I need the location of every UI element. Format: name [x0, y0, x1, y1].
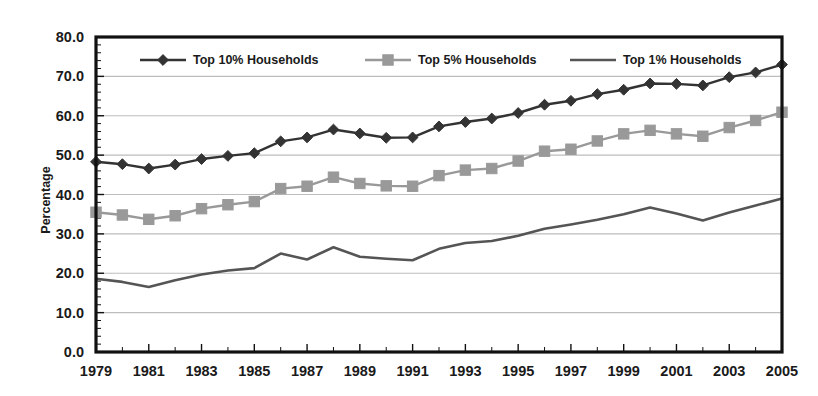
- data-point-marker: [592, 136, 602, 146]
- x-tick-label-2001: 2001: [660, 363, 692, 379]
- line-chart: 0.010.020.030.040.050.060.070.080.0 1979…: [0, 0, 818, 396]
- data-point-marker: [170, 211, 180, 221]
- legend-label: Top 1% Households: [623, 53, 742, 67]
- x-tick-label-1985: 1985: [238, 363, 270, 379]
- x-tick-label-1989: 1989: [344, 363, 376, 379]
- data-point-marker: [144, 214, 154, 224]
- chart-legend: Top 10% HouseholdsTop 5% HouseholdsTop 1…: [140, 53, 742, 67]
- y-tick-label-50: 50.0: [56, 147, 84, 163]
- x-tick-label-1983: 1983: [185, 363, 217, 379]
- data-point-marker: [407, 181, 417, 191]
- data-point-marker: [698, 131, 708, 141]
- data-point-marker: [671, 129, 681, 139]
- y-tick-label-10: 10.0: [56, 305, 84, 321]
- y-tick-label-40: 40.0: [56, 187, 84, 203]
- data-point-marker: [460, 165, 470, 175]
- x-tick-label-1991: 1991: [396, 363, 428, 379]
- y-axis-tick-labels: 0.010.020.030.040.050.060.070.080.0: [56, 29, 84, 360]
- x-tick-label-1979: 1979: [80, 363, 112, 379]
- data-point-marker: [724, 122, 734, 132]
- data-point-marker: [487, 163, 497, 173]
- data-point-marker: [275, 183, 285, 193]
- x-tick-label-1993: 1993: [449, 363, 481, 379]
- chart-figure: 0.010.020.030.040.050.060.070.080.0 1979…: [0, 0, 818, 396]
- data-point-marker: [750, 115, 760, 125]
- x-tick-label-1999: 1999: [608, 363, 640, 379]
- data-point-marker: [223, 200, 233, 210]
- data-point-marker: [381, 181, 391, 191]
- legend-label: Top 10% Households: [193, 53, 319, 67]
- x-tick-label-1987: 1987: [291, 363, 323, 379]
- data-point-marker: [355, 178, 365, 188]
- y-tick-label-0: 0.0: [64, 344, 84, 360]
- legend-label: Top 5% Households: [418, 53, 537, 67]
- y-tick-label-60: 60.0: [56, 108, 84, 124]
- data-point-marker: [117, 210, 127, 220]
- data-point-marker: [513, 156, 523, 166]
- data-point-marker: [566, 144, 576, 154]
- y-tick-label-80: 80.0: [56, 29, 84, 45]
- data-point-marker: [645, 125, 655, 135]
- x-tick-label-2003: 2003: [713, 363, 745, 379]
- data-point-marker: [434, 170, 444, 180]
- y-tick-label-20: 20.0: [56, 265, 84, 281]
- x-tick-label-1995: 1995: [502, 363, 534, 379]
- y-axis-title: Percentage: [39, 166, 53, 233]
- data-point-marker: [302, 181, 312, 191]
- y-tick-label-30: 30.0: [56, 226, 84, 242]
- data-point-marker: [539, 146, 549, 156]
- x-tick-label-1997: 1997: [555, 363, 587, 379]
- y-tick-label-70: 70.0: [56, 68, 84, 84]
- legend-square-marker-icon: [383, 55, 393, 65]
- data-point-marker: [328, 172, 338, 182]
- data-point-marker: [196, 203, 206, 213]
- data-point-marker: [249, 196, 259, 206]
- x-tick-label-1981: 1981: [133, 363, 165, 379]
- data-point-marker: [618, 129, 628, 139]
- legend-item-top-5-households[interactable]: Top 5% Households: [365, 53, 537, 67]
- x-tick-label-2005: 2005: [766, 363, 798, 379]
